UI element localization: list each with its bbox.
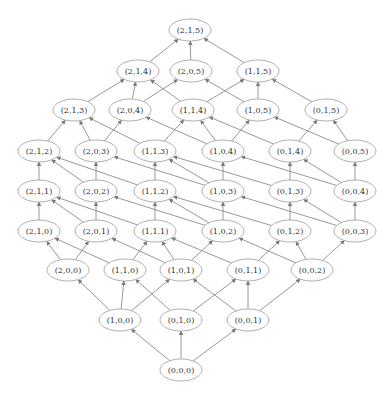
- edge-arrow: [88, 79, 125, 101]
- graph-node: (0,1,0): [160, 309, 202, 331]
- node-label: (2,1,1): [26, 187, 53, 196]
- node-label: (0,0,3): [342, 227, 369, 236]
- graph-node: (1,0,0): [99, 309, 141, 331]
- graph-node: (0,1,1): [227, 259, 269, 281]
- graph-node: (1,1,5): [237, 60, 279, 82]
- edge-arrow: [201, 120, 216, 140]
- node-label: (2,0,3): [83, 147, 110, 156]
- node-label: (2,1,5): [177, 26, 204, 35]
- graph-node: (0,0,1): [227, 309, 269, 331]
- lattice-diagram: (2,1,5)(2,1,4)(2,0,5)(1,1,5)(2,1,3)(2,0,…: [0, 0, 391, 396]
- node-label: (2,1,4): [125, 67, 152, 76]
- edge-arrow: [132, 82, 136, 99]
- node-label: (0,1,5): [313, 106, 340, 115]
- edge-arrow: [193, 329, 236, 361]
- edge-arrow: [169, 199, 209, 223]
- edge-arrow: [150, 39, 179, 62]
- node-label: (1,1,5): [245, 67, 272, 76]
- edge-arrow: [304, 159, 342, 182]
- node-label: (0,0,4): [342, 187, 369, 196]
- node-label: (0,1,1): [235, 266, 262, 275]
- node-label: (2,1,3): [61, 106, 88, 115]
- edge-arrow: [131, 279, 169, 310]
- graph-node: (1,0,3): [202, 180, 244, 202]
- graph-node: (1,1,3): [134, 140, 176, 162]
- graph-node: (2,0,0): [47, 259, 89, 281]
- node-label: (0,0,1): [235, 316, 262, 325]
- edge-arrow: [131, 329, 169, 360]
- edge-arrow: [78, 280, 110, 311]
- node-label: (1,0,5): [245, 106, 272, 115]
- graph-node: (2,1,2): [18, 140, 60, 162]
- node-label: (0,0,0): [168, 366, 195, 375]
- graph-node: (1,0,2): [202, 220, 244, 242]
- node-label: (1,0,4): [210, 147, 237, 156]
- node-label: (2,0,1): [83, 227, 110, 236]
- graph-node: (0,1,4): [269, 140, 311, 162]
- node-label: (1,1,2): [142, 187, 169, 196]
- edge-arrow: [204, 38, 244, 62]
- graph-node: (2,1,5): [169, 19, 211, 41]
- edge-arrow: [260, 279, 301, 311]
- graph-node: (1,1,1): [134, 220, 176, 242]
- node-label: (0,1,4): [277, 147, 304, 156]
- node-label: (1,1,1): [142, 227, 169, 236]
- edge-arrow: [150, 80, 180, 101]
- node-label: (1,1,3): [142, 147, 169, 156]
- graph-node: (0,0,4): [334, 180, 376, 202]
- edge-arrow: [104, 120, 121, 141]
- node-label: (0,1,0): [168, 316, 195, 325]
- node-label: (2,0,4): [117, 106, 144, 115]
- graph-node: (0,1,2): [269, 220, 311, 242]
- edge-arrow: [47, 241, 61, 260]
- graph-node: (1,1,4): [172, 99, 214, 121]
- edge-arrow: [258, 241, 279, 261]
- graph-node: (2,0,4): [109, 99, 151, 121]
- graph-node: (2,1,3): [53, 99, 95, 121]
- edge-arrow: [89, 118, 140, 144]
- node-label: (1,0,2): [210, 227, 237, 236]
- graph-node: (0,0,0): [160, 359, 202, 381]
- edge-arrow: [121, 281, 124, 309]
- graph-node: (2,1,4): [117, 60, 159, 82]
- graph-node: (0,0,2): [291, 259, 333, 281]
- node-label: (2,0,5): [178, 67, 205, 76]
- graph-node: (2,1,1): [18, 180, 60, 202]
- node-label: (0,0,5): [342, 147, 369, 156]
- node-label: (0,1,3): [277, 187, 304, 196]
- node-label: (1,1,4): [180, 106, 207, 115]
- graph-node: (1,0,1): [160, 259, 202, 281]
- graph-node: (2,1,0): [18, 220, 60, 242]
- node-label: (2,1,0): [26, 227, 53, 236]
- graph-node: (2,0,3): [75, 140, 117, 162]
- node-label: (1,0,0): [107, 316, 134, 325]
- edge-arrow: [299, 120, 317, 141]
- edge-arrow: [323, 241, 345, 261]
- node-label: (0,0,2): [299, 266, 326, 275]
- edge-arrow: [80, 121, 91, 141]
- graph-node: (1,0,5): [237, 99, 279, 121]
- graph-node: (1,1,2): [134, 180, 176, 202]
- edge-arrow: [333, 120, 347, 140]
- edge-arrow: [48, 120, 66, 141]
- edge-arrow: [164, 120, 184, 141]
- edge-arrow: [169, 159, 209, 183]
- graph-node: (1,0,4): [202, 140, 244, 162]
- node-label: (2,0,2): [83, 187, 110, 196]
- graph-node: (0,1,5): [305, 99, 347, 121]
- edge-arrow: [304, 199, 342, 222]
- node-label: (2,0,0): [55, 266, 82, 275]
- node-label: (2,1,2): [26, 147, 53, 156]
- edge-arrow: [162, 241, 174, 259]
- graph-node: (2,0,2): [75, 180, 117, 202]
- edge-arrow: [296, 242, 306, 260]
- nodes-layer: (2,1,5)(2,1,4)(2,0,5)(1,1,5)(2,1,3)(2,0,…: [18, 19, 376, 381]
- edge-arrow: [272, 79, 312, 102]
- graph-node: (2,0,5): [170, 60, 212, 82]
- edge-arrow: [143, 80, 177, 102]
- graph-node: (2,0,1): [75, 220, 117, 242]
- node-label: (1,1,0): [112, 266, 139, 275]
- node-label: (1,0,1): [168, 266, 195, 275]
- node-label: (1,0,3): [210, 187, 237, 196]
- edge-arrow: [136, 279, 171, 310]
